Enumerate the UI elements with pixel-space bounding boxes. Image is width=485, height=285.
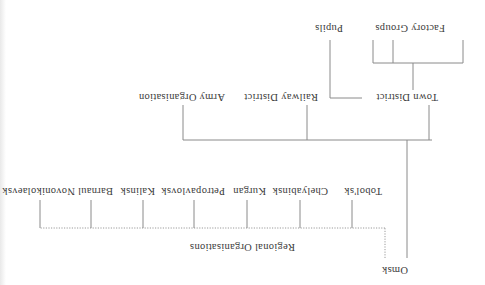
regional-item-kalinsk: Kalinsk (120, 186, 155, 197)
regional-item-barnaul: Barnaul (78, 186, 113, 197)
regional-item-petropavlovsk: Petropavlovsk (161, 186, 225, 197)
regional-item-kurgan: Kurgan (232, 186, 266, 197)
node-regional-organisations: Regional Organisations (190, 242, 295, 253)
node-factory-groups: Factory Groups (375, 23, 445, 34)
node-railway-district: Railway District (244, 92, 318, 103)
node-army-organisation: Army Organisation (138, 92, 225, 103)
node-omsk: Omsk (381, 265, 408, 276)
node-town-district: Town District (376, 92, 438, 103)
node-pupils: Pupils (315, 23, 343, 34)
regional-item-chelyabinsk: Chelyabinsk (272, 186, 328, 197)
regional-item-tobolsk: Tobol'sk (344, 186, 382, 197)
org-diagram-svg: Omsk Town District Railway District Army… (0, 0, 485, 285)
regional-item-novonikolaevsk: Novonikolaevsk (2, 186, 75, 197)
org-diagram: Omsk Town District Railway District Army… (0, 0, 485, 285)
